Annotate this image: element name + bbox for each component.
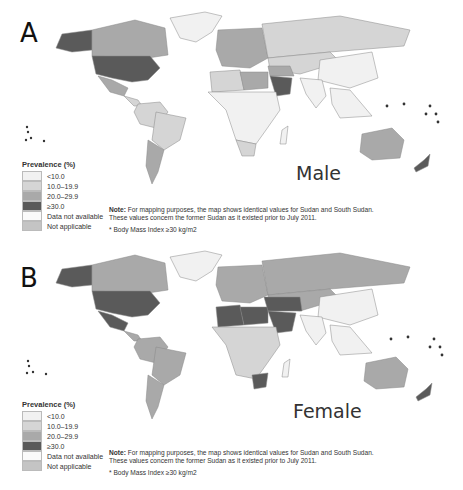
legend-item: ≥30.0 (22, 201, 103, 211)
legend-item: 10.0–19.9 (22, 421, 103, 431)
region-madagascar (282, 359, 290, 377)
map-note: Note: For mapping purposes, the map show… (109, 206, 374, 234)
legend-label: 10.0–19.9 (47, 183, 78, 190)
legend-title: Prevalence (%) (22, 400, 103, 409)
panel-female: B Female Prevalence (%) <10.0 10.0–19.9 … (0, 245, 463, 490)
legend-label: 10.0–19.9 (47, 423, 78, 430)
region-subsaharan-africa (208, 92, 280, 144)
legend-label: <10.0 (47, 413, 65, 420)
legend-label: <10.0 (47, 173, 65, 180)
legend-label: Not applicable (47, 463, 91, 470)
legend-title: Prevalence (%) (22, 160, 103, 169)
note-line: These values concern the former Sudan as… (109, 214, 374, 222)
region-india (300, 315, 326, 345)
legend-item: 20.0–29.9 (22, 191, 103, 201)
legend-swatch (22, 211, 42, 221)
legend-swatch (22, 411, 42, 421)
region-europe (216, 28, 268, 68)
legend-swatch (22, 171, 42, 181)
region-north-africa (216, 305, 244, 327)
legend-swatch (22, 431, 42, 441)
region-russia (262, 16, 410, 58)
legend-label: Data not available (47, 453, 103, 460)
legend-item: 20.0–29.9 (22, 431, 103, 441)
note-line: For mapping purposes, the map shows iden… (126, 449, 374, 456)
legend-label: Data not available (47, 213, 103, 220)
region-egypt-libya (240, 307, 268, 325)
region-subsaharan-africa (212, 327, 280, 379)
sex-label: Male (296, 162, 341, 184)
legend-item: Not applicable (22, 221, 103, 231)
region-europe (216, 265, 268, 303)
panel-label: B (20, 263, 38, 293)
legend-item: Data not available (22, 211, 103, 221)
region-greenland (170, 12, 222, 42)
legend-label: Not applicable (47, 223, 91, 230)
note-bold: Note: (109, 206, 126, 213)
legend-item: <10.0 (22, 411, 103, 421)
region-canada (92, 20, 168, 58)
region-middle-east (268, 66, 294, 76)
legend-item: ≥30.0 (22, 441, 103, 451)
region-brazil (152, 347, 186, 385)
map-note: Note: For mapping purposes, the map show… (109, 449, 374, 477)
legend-item: <10.0 (22, 171, 103, 181)
legend-label: 20.0–29.9 (47, 433, 78, 440)
legend-swatch (22, 181, 42, 191)
legend-swatch (22, 421, 42, 431)
region-madagascar (280, 126, 288, 144)
region-alaska (56, 265, 92, 287)
legend-swatch (22, 221, 42, 231)
legend-swatch (22, 451, 42, 461)
footnote: * Body Mass Index ≥30 kg/m2 (109, 226, 374, 234)
legend-swatch (22, 201, 42, 211)
region-russia (262, 253, 410, 295)
legend-swatch (22, 461, 42, 471)
region-brazil (152, 112, 186, 150)
legend-swatch (22, 191, 42, 201)
note-bold: Note: (109, 449, 126, 456)
region-south-africa (252, 373, 268, 389)
region-alaska (56, 30, 92, 52)
legend-item: Data not available (22, 451, 103, 461)
note-line: These values concern the former Sudan as… (109, 457, 374, 465)
legend-swatch (22, 441, 42, 451)
legend: Prevalence (%) <10.0 10.0–19.9 20.0–29.9… (22, 160, 103, 231)
region-egypt-libya (240, 72, 268, 90)
region-india (300, 78, 326, 108)
region-southeast-asia (330, 325, 372, 355)
region-north-africa (210, 70, 244, 92)
region-australia (360, 128, 404, 160)
panel-label: A (20, 18, 38, 48)
footnote: * Body Mass Index ≥30 kg/m2 (109, 469, 374, 477)
note-line: For mapping purposes, the map shows iden… (126, 206, 374, 213)
region-middle-east (264, 297, 302, 311)
panel-male: A Male Prevalence (%) <10.0 10.0–19.9 20… (0, 0, 463, 245)
legend-label: ≥30.0 (47, 443, 64, 450)
legend-item: 10.0–19.9 (22, 181, 103, 191)
region-southeast-asia (330, 88, 372, 118)
region-greenland (170, 251, 222, 281)
sex-label: Female (293, 400, 362, 422)
legend-label: ≥30.0 (47, 203, 64, 210)
region-australia (364, 357, 408, 389)
region-new-zealand (416, 383, 432, 401)
region-canada (92, 255, 168, 293)
region-new-zealand (414, 154, 430, 172)
legend-item: Not applicable (22, 461, 103, 471)
legend: Prevalence (%) <10.0 10.0–19.9 20.0–29.9… (22, 400, 103, 471)
legend-label: 20.0–29.9 (47, 193, 78, 200)
